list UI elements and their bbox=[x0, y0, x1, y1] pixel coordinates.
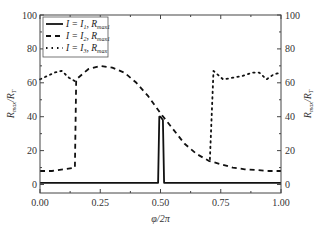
y-tick-label-right: 20 bbox=[285, 145, 295, 156]
x-tick-label: 0.75 bbox=[212, 197, 230, 208]
x-tick-label: 0.00 bbox=[31, 197, 49, 208]
chart: 0.000.250.500.751.0000202040406060808010… bbox=[0, 0, 319, 234]
x-axis-label: φ/2π bbox=[151, 213, 170, 224]
y-tick-label-left: 40 bbox=[27, 111, 37, 122]
series-layer bbox=[40, 66, 281, 183]
legend: I = I1, Rmax1 I = I2, Rmax1 I = I3, Rmax bbox=[43, 17, 110, 57]
y-tick-label-right: 100 bbox=[285, 10, 300, 21]
x-tick-label: 1.00 bbox=[272, 197, 290, 208]
y-tick-label-left: 0 bbox=[32, 179, 37, 190]
y-tick-label-left: 80 bbox=[27, 43, 37, 54]
x-tick-label: 0.25 bbox=[92, 197, 110, 208]
svg-text:Rmax/RT: Rmax/RT bbox=[302, 89, 314, 119]
y-tick-label-left: 20 bbox=[27, 145, 37, 156]
y-tick-label-left: 100 bbox=[22, 10, 37, 21]
y-axis-label-right: Rmax/RT bbox=[302, 89, 314, 119]
x-tick-label: 0.50 bbox=[152, 197, 170, 208]
y-tick-label-right: 80 bbox=[285, 43, 295, 54]
y-tick-label-left: 60 bbox=[27, 77, 37, 88]
y-tick-label-right: 60 bbox=[285, 77, 295, 88]
y-tick-label-right: 40 bbox=[285, 111, 295, 122]
series-dashed-line bbox=[40, 66, 281, 171]
y-tick-label-right: 0 bbox=[285, 179, 290, 190]
svg-text:Rmax/RT: Rmax/RT bbox=[5, 89, 17, 119]
y-axis-label-left: Rmax/RT bbox=[5, 89, 17, 119]
